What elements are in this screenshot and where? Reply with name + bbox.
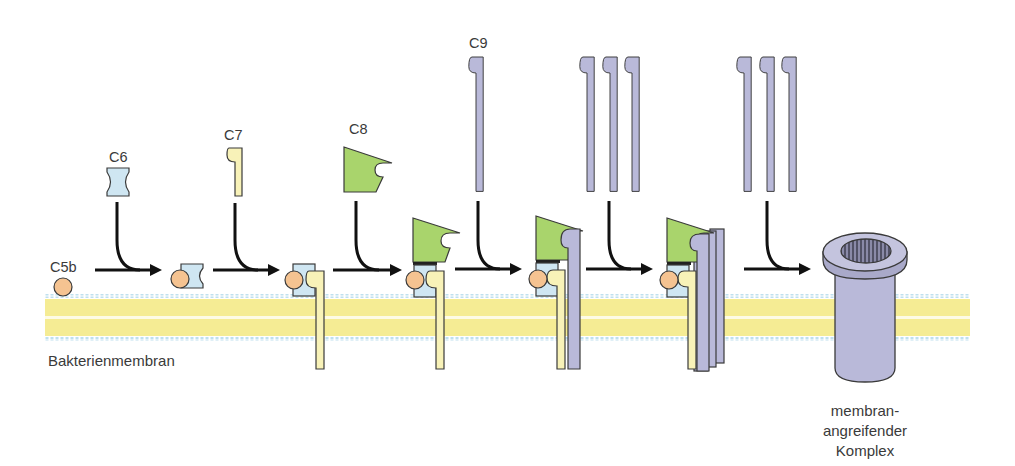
c9-molecules-group-1: [580, 57, 639, 191]
c6-label: C6: [109, 149, 128, 165]
mac-label-line2: angreifender: [823, 422, 907, 439]
reaction-arrow-1: [95, 202, 162, 276]
c6-molecule: [107, 168, 129, 196]
c9-molecule: [469, 57, 483, 191]
c5b-molecule: [54, 278, 72, 296]
reaction-arrow-5: [586, 201, 653, 275]
c7-molecule: [227, 148, 242, 196]
complex-c5b8: [406, 218, 460, 369]
membrane-label: Bakterienmembran: [48, 352, 175, 369]
mac-formation-diagram: Bakterienmembran C5b C6 C7 C8: [0, 0, 1015, 466]
mac-label-line3: Komplex: [836, 442, 895, 459]
reaction-arrow-3: [333, 201, 402, 276]
c7-label: C7: [224, 127, 243, 143]
reaction-arrow-2: [213, 203, 280, 276]
reaction-arrow-4: [455, 201, 522, 275]
membrane-attack-complex: [823, 233, 907, 382]
mac-label-line1: membran-: [831, 402, 899, 419]
reaction-arrow-6: [744, 201, 811, 275]
c9-label: C9: [469, 35, 488, 51]
complex-c5b6: [171, 264, 203, 288]
c5b-label: C5b: [50, 259, 77, 275]
c8-label: C8: [349, 121, 368, 137]
bacterial-membrane: [45, 294, 970, 341]
complex-c5b9-multiple: [660, 218, 724, 371]
c8-molecule: [344, 147, 392, 192]
c9-molecules-group-2: [737, 57, 796, 191]
complex-c5b9-single: [529, 216, 583, 369]
